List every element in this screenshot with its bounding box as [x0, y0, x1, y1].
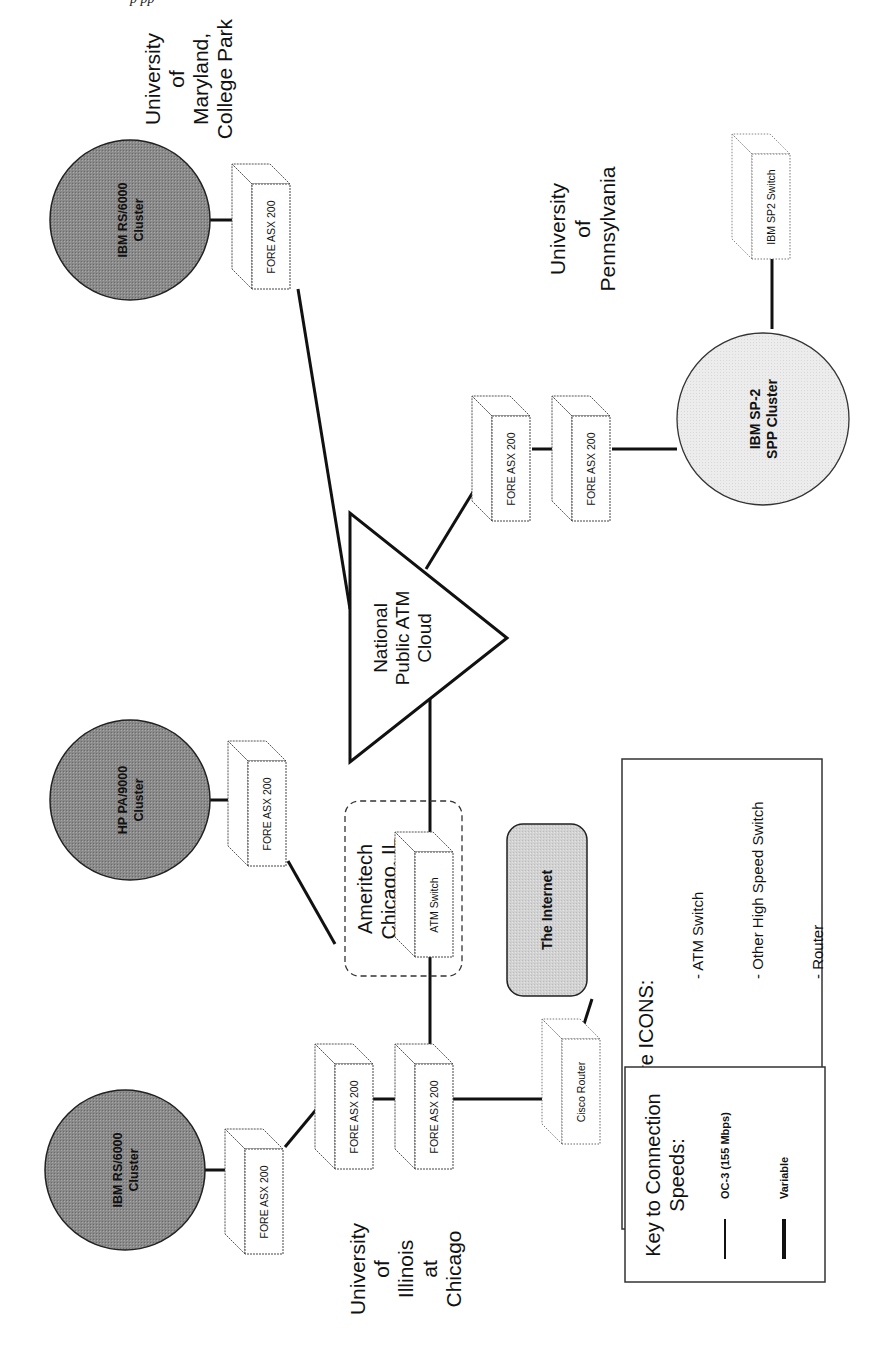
cluster-label: HP PA/9000: [116, 766, 130, 834]
switch-fore-asx200-upenn-1: FORE ASX 200: [472, 396, 530, 521]
cluster-label: IBM RS/6000: [116, 182, 130, 257]
router-cisco: Cisco Router: [542, 1019, 600, 1144]
switch-fore-asx200-uic-1: FORE ASX 200: [225, 1129, 283, 1254]
speed-key-item-label: OC-3 (155 Mbps): [719, 1112, 731, 1199]
the-internet: The Internet: [507, 824, 587, 996]
cluster-hp-pa9000: HP PA/9000 Cluster: [50, 720, 210, 880]
site-label-line: College Park: [213, 18, 236, 139]
cloud-label: National: [370, 603, 391, 673]
device-label: FORE ASX 200: [505, 432, 517, 505]
hardware-key-item-label: - Router: [809, 925, 826, 979]
cluster-label: SPP Cluster: [764, 379, 780, 459]
site-label-line: Illinois: [394, 1240, 417, 1298]
device-label: FORE ASX 200: [265, 200, 277, 273]
site-label-line: at: [418, 1260, 441, 1278]
switch-fore-asx200-umd: FORE ASX 200: [232, 164, 290, 289]
device-label: FORE ASX 200: [258, 1165, 270, 1238]
site-label-line: University: [141, 32, 164, 125]
device-label: FORE ASX 200: [261, 777, 273, 850]
cluster-ibm-sp2: IBM SP-2 SPP Cluster: [677, 333, 849, 505]
site-label-umd: University of Maryland, College Park: [141, 18, 236, 139]
cluster-uic-ibm-rs6000: IBM RS/6000 Cluster: [45, 1090, 205, 1250]
speed-key-title: Speeds:: [666, 1138, 688, 1211]
device-label: ATM Switch: [428, 877, 440, 932]
cluster-umd-ibm-rs6000: IBM RS/6000 Cluster: [50, 140, 210, 300]
switch-fore-asx200-upenn-2: FORE ASX 200: [552, 396, 610, 521]
cluster-label: Cluster: [132, 198, 146, 241]
device-label: FORE ASX 200: [348, 1080, 360, 1153]
cluster-label: IBM SP-2: [747, 388, 763, 449]
speed-key-title: Key to Connection: [642, 1093, 664, 1256]
site-label-line: Pennsylvania: [596, 166, 619, 291]
cloud-label: Cloud: [414, 613, 435, 663]
cluster-label: Cluster: [132, 778, 146, 821]
site-label-line: University: [546, 182, 569, 275]
site-label-line: University: [346, 1222, 369, 1315]
site-label-line: Maryland,: [189, 33, 212, 125]
site-label-line: of: [165, 70, 188, 88]
site-label-upenn: University of Pennsylvania: [546, 166, 619, 291]
cluster-label: IBM RS/6000: [111, 1132, 125, 1207]
internet-label: The Internet: [539, 870, 555, 950]
speed-key-item-label: Variable: [778, 1157, 790, 1199]
switch-fore-asx200-uic-2: FORE ASX 200: [315, 1044, 373, 1169]
site-label-line: Chicago: [442, 1230, 465, 1307]
connection-speed-key-legend: Key to Connection Speeds: OC-3 (155 Mbps…: [625, 1067, 825, 1282]
hardware-key-item-label: - Other High Speed Switch: [749, 801, 766, 979]
link-hp-fore-uic-fore: [288, 861, 335, 944]
network-diagram: University of Maryland, College Park Uni…: [0, 0, 890, 1369]
site-label-line: of: [571, 220, 594, 238]
site-label-uic: University of Illinois at Chicago: [346, 1222, 465, 1315]
switch-fore-asx200-uic-3: FORE ASX 200: [395, 1044, 453, 1169]
device-label: FORE ASX 200: [585, 432, 597, 505]
device-label: Cisco Router: [575, 1061, 587, 1122]
switch-atm-ameritech: ATM Switch: [395, 832, 453, 957]
device-label: IBM SP2 Switch: [765, 169, 777, 244]
switch-fore-asx200-hp: FORE ASX 200: [228, 741, 286, 866]
cluster-label: Cluster: [127, 1148, 141, 1191]
ameritech-label: Ameritech: [354, 844, 376, 934]
site-label-line: of: [370, 1260, 393, 1278]
device-label: FORE ASX 200: [428, 1080, 440, 1153]
cloud-label: Public ATM: [392, 591, 413, 686]
hardware-key-item-label: - ATM Switch: [689, 892, 706, 979]
switch-ibm-sp2: IBM SP2 Switch: [732, 134, 790, 259]
link-umd-fore-cloud: [298, 289, 350, 609]
